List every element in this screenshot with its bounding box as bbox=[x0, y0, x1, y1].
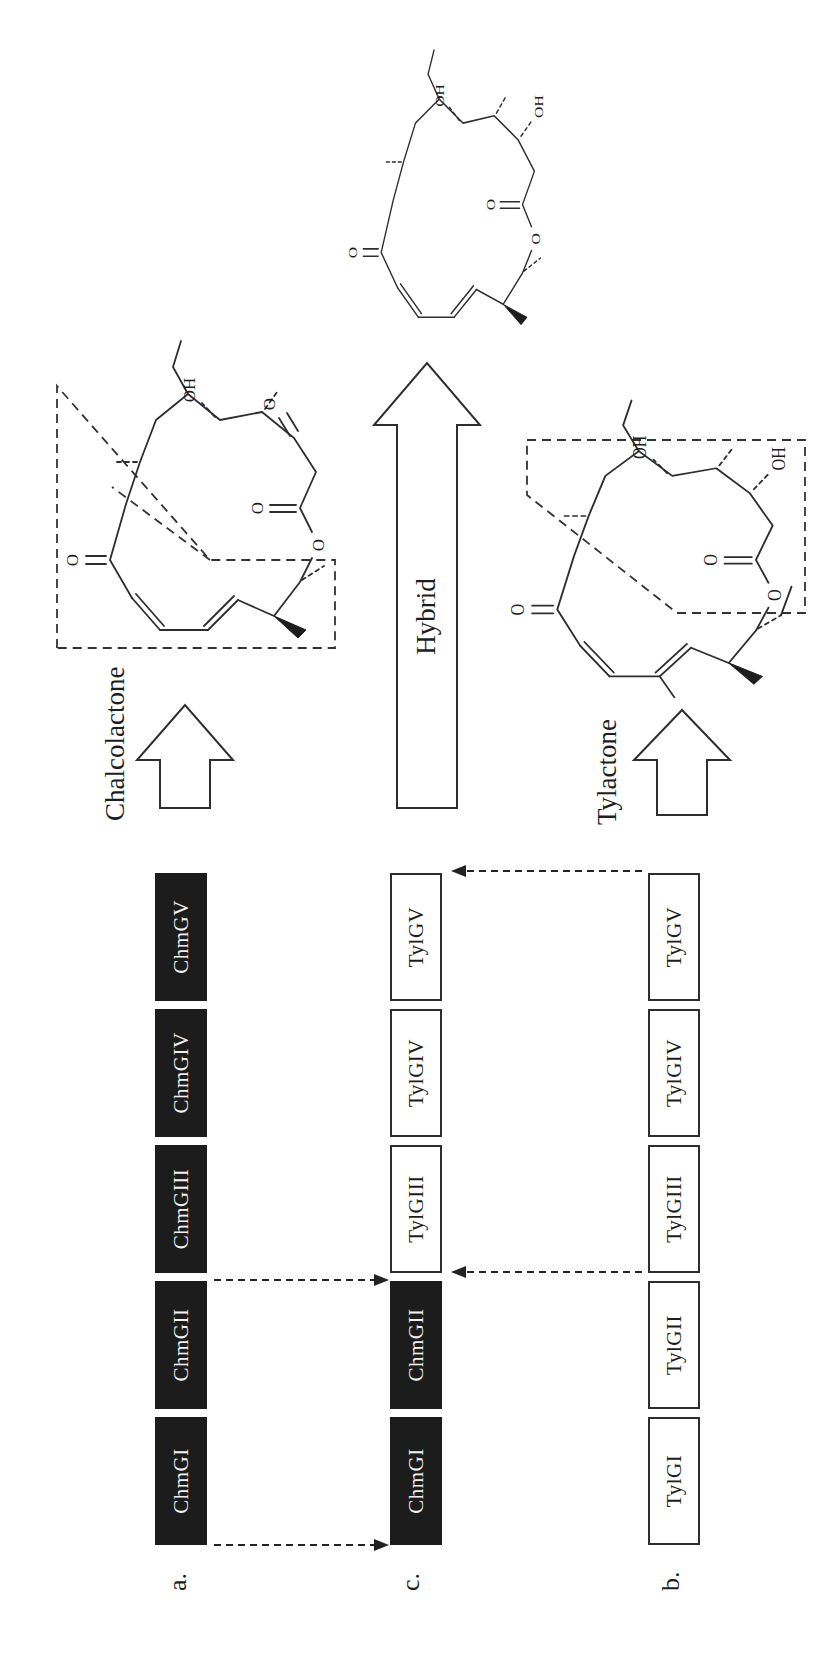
bold-wedge-methyl bbox=[503, 304, 527, 324]
gene-box-a-chmgi: ChmGI bbox=[155, 1417, 207, 1545]
tylactone-structure-drawing: O O O OH OH bbox=[505, 390, 803, 705]
chalcolactone-structure: O O O O OH bbox=[60, 330, 345, 660]
atom-label-c3-oh: OH bbox=[769, 447, 789, 470]
panel-label-a: a. bbox=[163, 1573, 193, 1591]
atom-label-lactone-o: O bbox=[701, 554, 721, 566]
hybrid-label: Hybrid bbox=[411, 425, 442, 808]
gene-box-a-chmgii: ChmGII bbox=[155, 1281, 207, 1409]
methyl-on-diene bbox=[660, 676, 675, 697]
panel-label-b: b. bbox=[656, 1572, 686, 1592]
gene-box-c-tylgv: TylGV bbox=[390, 873, 442, 1001]
gene-box-c-chmgii: ChmGII bbox=[390, 1281, 442, 1409]
atom-label-ketone-o: O bbox=[346, 247, 360, 258]
gene-row-b: TylGI TylGII TylGIII TylGIV TylGV bbox=[648, 873, 700, 1545]
chalcolactone-structure-drawing: O O O O OH bbox=[60, 330, 345, 660]
gene-box-c-tylgiv: TylGIV bbox=[390, 1009, 442, 1137]
hybrid-structure-drawing: O O O OH OH bbox=[344, 40, 556, 345]
panel-label-c: c. bbox=[396, 1573, 426, 1591]
gene-box-b-tylgiii: TylGIII bbox=[648, 1145, 700, 1273]
bold-wedge-methyl bbox=[729, 663, 762, 684]
atom-label-c3-oh: OH bbox=[532, 95, 546, 118]
rotated-figure-canvas: a. ChmGI ChmGII ChmGIII ChmGIV ChmGV c. … bbox=[0, 0, 821, 1671]
atom-label-c3-o: O bbox=[260, 398, 279, 410]
bold-wedge-methyl bbox=[274, 616, 306, 638]
double-bonds bbox=[86, 413, 298, 630]
gene-box-b-tylgv: TylGV bbox=[648, 873, 700, 1001]
gene-box-b-tylgi: TylGI bbox=[648, 1417, 700, 1545]
atom-label-ketone-o: O bbox=[508, 604, 528, 616]
gene-transfer-arrowhead bbox=[374, 1539, 389, 1551]
hybrid-structure: O O O OH OH bbox=[344, 40, 556, 345]
gene-box-a-chmgiv: ChmGIV bbox=[155, 1009, 207, 1137]
atom-label-ring-o: O bbox=[309, 539, 328, 551]
atom-label-c5-oh: OH bbox=[630, 436, 650, 459]
atom-label-c5-oh: OH bbox=[180, 378, 199, 403]
gene-box-a-chmgiii: ChmGIII bbox=[155, 1145, 207, 1273]
gene-box-b-tylgiv: TylGIV bbox=[648, 1009, 700, 1137]
chalcolactone-arrow bbox=[137, 705, 233, 808]
atom-label-ketone-o: O bbox=[63, 554, 82, 566]
gene-row-c: ChmGI ChmGII TylGIII TylGIV TylGV bbox=[390, 873, 442, 1545]
gene-transfer-arrowhead bbox=[374, 1274, 389, 1286]
gene-box-a-chmgv: ChmGV bbox=[155, 873, 207, 1001]
chalcolactone-label: Chalcolactone bbox=[100, 667, 131, 821]
gene-box-c-chmgi: ChmGI bbox=[390, 1417, 442, 1545]
tylactone-arrow bbox=[634, 710, 730, 815]
gene-transfer-arrowhead bbox=[451, 1266, 466, 1278]
atom-label-lactone-o: O bbox=[483, 199, 497, 210]
gene-row-a: ChmGI ChmGII ChmGIII ChmGIV ChmGV bbox=[155, 873, 207, 1545]
gene-box-b-tylgii: TylGII bbox=[648, 1281, 700, 1409]
tylactone-label: Tylactone bbox=[592, 719, 623, 825]
figure-page: a. ChmGI ChmGII ChmGIII ChmGIV ChmGV c. … bbox=[0, 0, 821, 1671]
atom-label-lactone-o: O bbox=[248, 502, 267, 514]
gene-box-c-tylgiii: TylGIII bbox=[390, 1145, 442, 1273]
gene-transfer-arrowhead bbox=[451, 865, 466, 877]
atom-label-ring-o: O bbox=[765, 589, 785, 601]
tylactone-structure: O O O OH OH bbox=[505, 390, 803, 705]
atom-label-ring-o: O bbox=[529, 233, 543, 244]
atom-label-c5-oh: OH bbox=[433, 84, 447, 107]
